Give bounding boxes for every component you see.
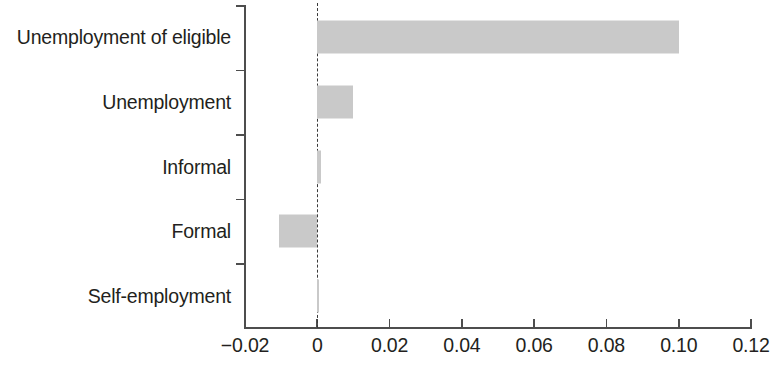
bar bbox=[317, 21, 678, 54]
y-axis-category-label: Unemployment of eligible bbox=[0, 26, 231, 49]
y-axis-category-label: Formal bbox=[0, 220, 231, 243]
x-axis-tick bbox=[606, 319, 608, 328]
x-axis-tick-label: 0 bbox=[312, 334, 323, 357]
y-axis-line bbox=[244, 5, 246, 328]
y-axis-tick bbox=[236, 70, 245, 72]
bar bbox=[317, 150, 321, 183]
x-axis-tick-label: 0.12 bbox=[732, 334, 769, 357]
y-axis-category-label: Self-employment bbox=[0, 284, 231, 307]
y-axis-tick bbox=[236, 134, 245, 136]
bar bbox=[317, 279, 319, 312]
bar bbox=[317, 85, 353, 118]
x-axis-tick bbox=[389, 319, 391, 328]
bar bbox=[279, 215, 317, 248]
x-axis-tick-label: 0.06 bbox=[516, 334, 553, 357]
x-axis-tick-label: 0.08 bbox=[588, 334, 625, 357]
x-axis-tick bbox=[533, 319, 535, 328]
bar-chart: Unemployment of eligibleUnemploymentInfo… bbox=[0, 0, 771, 367]
x-axis-tick-label: −0.02 bbox=[221, 334, 269, 357]
y-axis-tick bbox=[236, 263, 245, 265]
y-axis-category-label: Informal bbox=[0, 155, 231, 178]
x-axis-tick bbox=[678, 319, 680, 328]
x-axis-tick-label: 0.02 bbox=[371, 334, 408, 357]
y-axis-category-label: Unemployment bbox=[0, 90, 231, 113]
x-axis-tick-label: 0.04 bbox=[443, 334, 480, 357]
x-axis-tick-label: 0.10 bbox=[660, 334, 697, 357]
x-axis-tick bbox=[750, 319, 752, 328]
x-axis-tick bbox=[461, 319, 463, 328]
y-axis-tick bbox=[236, 5, 245, 7]
x-axis-line bbox=[244, 327, 752, 329]
x-axis-tick bbox=[244, 319, 246, 328]
y-axis-tick bbox=[236, 199, 245, 201]
